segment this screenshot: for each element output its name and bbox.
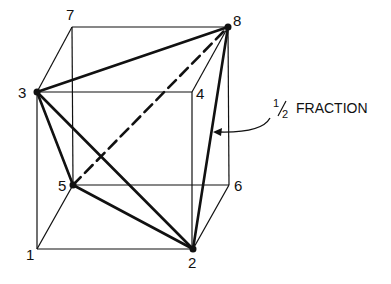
vertex-label-2: 2 <box>188 254 196 271</box>
fraction-denominator: 2 <box>282 108 288 120</box>
cube-diagram: 1 2 3 4 5 6 7 8 1 2 FRACTION <box>0 0 391 284</box>
fraction-label: FRACTION <box>296 100 368 116</box>
vertex-label-4: 4 <box>196 85 204 102</box>
vertex-label-6: 6 <box>234 177 242 194</box>
vertex-label-5: 5 <box>58 177 66 194</box>
vertex-label-3: 3 <box>18 84 26 101</box>
half-fraction-annotation: 1 2 FRACTION <box>213 97 368 136</box>
vertex-label-1: 1 <box>26 246 34 263</box>
arrowhead-icon <box>213 128 222 136</box>
vertex-label-8: 8 <box>233 12 241 29</box>
arrow-icon <box>219 118 270 132</box>
half-fraction-edges <box>37 27 228 249</box>
fraction-numerator: 1 <box>273 97 279 109</box>
vertex-label-7: 7 <box>66 6 74 23</box>
